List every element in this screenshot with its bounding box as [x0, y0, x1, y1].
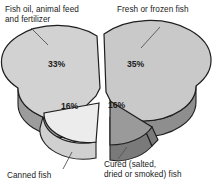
pie-chart-figure: Fish oil, animal feedand fertilizer Fres… [0, 0, 214, 187]
value-label-fish-oil: 33% [48, 59, 65, 69]
label-cured-fish: Cured (salted,dried or smoked) fish [104, 160, 182, 180]
label-cured-line1: Cured (salted, [104, 160, 156, 169]
label-fresh-frozen-line1: Fresh or frozen fish [117, 5, 189, 14]
label-fish-oil-line2: and fertilizer [5, 15, 50, 24]
label-cured-line2: dried or smoked) fish [104, 170, 182, 179]
value-label-cured: 16% [108, 100, 125, 110]
label-fish-oil-line1: Fish oil, animal feed [5, 5, 79, 14]
value-label-fresh-frozen: 35% [127, 59, 144, 69]
label-canned-fish: Canned fish [7, 171, 51, 181]
value-label-canned: 16% [61, 101, 78, 111]
label-fresh-or-frozen-fish: Fresh or frozen fish [117, 5, 189, 15]
pie-chart-graphic [0, 0, 214, 187]
label-canned-line1: Canned fish [7, 171, 51, 180]
label-fish-oil-animal-feed-and-fertilizer: Fish oil, animal feedand fertilizer [5, 5, 79, 25]
